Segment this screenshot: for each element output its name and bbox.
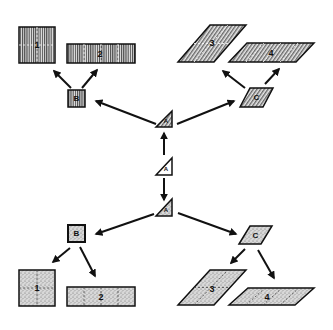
bottom-child-1-square: 1 bbox=[19, 270, 55, 306]
bottom-node-b: B bbox=[68, 225, 85, 242]
shape-transformation-diagram: 1 2 B 3 4 bbox=[0, 0, 333, 330]
bottom-node-c: C bbox=[239, 226, 272, 244]
arrow-top-apex-to-c bbox=[177, 101, 234, 124]
bottom-child-4-parallelogram: 4 bbox=[229, 288, 314, 305]
top-child-1-square: 1 bbox=[19, 27, 55, 63]
bottom-child-2-label: 2 bbox=[98, 292, 103, 302]
arrow-top-c-to-4 bbox=[265, 69, 279, 84]
top-branch: 1 2 B 3 4 bbox=[19, 25, 314, 127]
top-apex-triangle: A bbox=[156, 111, 172, 127]
bottom-child-1-label: 1 bbox=[34, 283, 39, 293]
top-child-1-label: 1 bbox=[34, 40, 39, 50]
arrow-bottom-b-to-2 bbox=[80, 247, 95, 276]
bottom-child-2-rectangle: 2 bbox=[67, 287, 135, 306]
arrow-bottom-c-to-3 bbox=[231, 249, 245, 263]
top-child-2-label: 2 bbox=[97, 49, 102, 59]
arrow-bottom-apex-to-c bbox=[178, 213, 236, 234]
top-apex-label: A bbox=[164, 118, 169, 124]
arrow-top-b-to-2 bbox=[82, 70, 97, 88]
top-child-4-parallelogram: 4 bbox=[229, 43, 314, 62]
bottom-node-b-label: B bbox=[74, 229, 80, 238]
bottom-child-4-label: 4 bbox=[264, 292, 269, 302]
arrow-top-c-to-3 bbox=[223, 71, 245, 88]
top-node-b: B bbox=[68, 90, 85, 107]
bottom-apex-label: A bbox=[164, 207, 169, 213]
top-node-c-label: C bbox=[254, 93, 260, 102]
arrow-top-b-to-1 bbox=[54, 71, 71, 88]
arrow-bottom-b-to-1 bbox=[53, 248, 70, 262]
top-child-2-rectangle: 2 bbox=[67, 44, 135, 63]
center-node: A bbox=[156, 158, 172, 175]
arrow-top-apex-to-b bbox=[96, 101, 156, 124]
top-node-b-label: B bbox=[74, 94, 80, 103]
bottom-node-c-label: C bbox=[253, 231, 259, 240]
arrow-bottom-c-to-4 bbox=[258, 250, 274, 278]
center-label: A bbox=[164, 166, 169, 172]
top-node-c: C bbox=[240, 88, 273, 107]
top-child-4-label: 4 bbox=[268, 48, 273, 58]
top-child-3-label: 3 bbox=[209, 38, 214, 48]
bottom-branch: A B 1 2 C 3 bbox=[19, 199, 314, 306]
bottom-child-3-label: 3 bbox=[209, 284, 214, 294]
bottom-apex-triangle: A bbox=[156, 199, 172, 216]
arrow-bottom-apex-to-b bbox=[96, 214, 154, 234]
